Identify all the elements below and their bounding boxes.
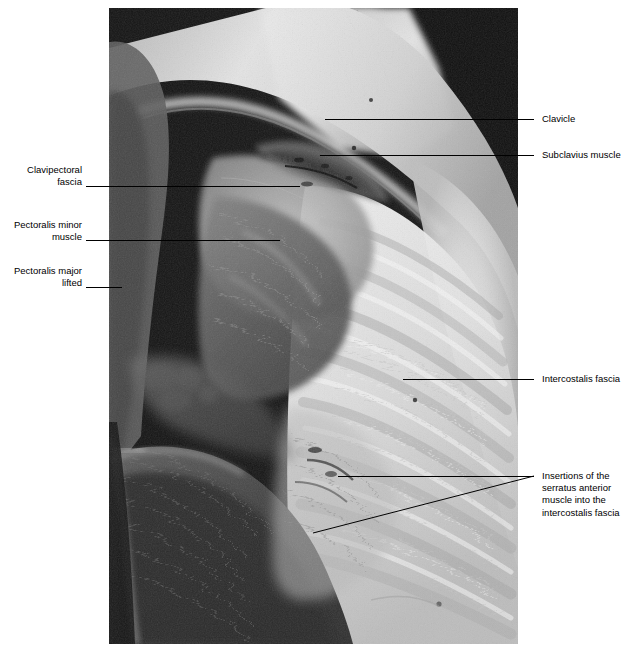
label-clavipectoral-fascia: Clavipectoral fascia xyxy=(0,164,82,188)
label-clavicle: Clavicle xyxy=(542,113,631,125)
label-insertions-serratus-anterior: Insertions of the serratus anterior musc… xyxy=(542,470,631,519)
label-pectoralis-major-lifted: Pectoralis major lifted xyxy=(0,265,82,289)
label-intercostalis-fascia: Intercostalis fascia xyxy=(542,373,631,385)
label-pectoralis-minor-muscle: Pectoralis minor muscle xyxy=(0,219,82,243)
anatomical-figure: Clavipectoral fascia Pectoralis minor mu… xyxy=(0,0,631,652)
dissection-photograph xyxy=(109,8,518,644)
photograph-canvas xyxy=(109,8,518,644)
label-subclavius-muscle: Subclavius muscle xyxy=(542,149,631,161)
